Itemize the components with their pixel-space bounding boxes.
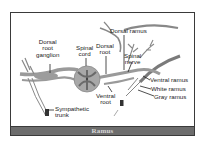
label-sympathetic-trunk: Sympathetic trunk bbox=[55, 106, 89, 119]
label-line: trunk bbox=[55, 112, 89, 118]
label-spinal-nerve: Spinal nerve bbox=[124, 53, 141, 66]
label-dorsal-ramus: Dorsal ramus bbox=[110, 28, 147, 34]
label-dorsal-root: Dorsal root bbox=[96, 43, 114, 56]
label-white-ramus: White ramus bbox=[151, 86, 186, 92]
label-line: root bbox=[96, 99, 115, 105]
label-line: cord bbox=[76, 51, 93, 57]
figure-caption: Ramus bbox=[91, 127, 113, 135]
label-line: ganglion bbox=[36, 52, 59, 58]
label-ventral-ramus: Ventral ramus bbox=[150, 77, 188, 83]
label-dorsal-root-ganglion: Dorsal root ganglion bbox=[36, 39, 59, 58]
spinal-nerve-illustration bbox=[0, 0, 208, 145]
label-gray-ramus: Gray ramus bbox=[154, 94, 186, 100]
label-line: root bbox=[96, 49, 114, 55]
label-line: nerve bbox=[124, 59, 141, 65]
label-spinal-cord: Spinal cord bbox=[76, 45, 93, 58]
label-ventral-root: Ventral root bbox=[96, 93, 115, 106]
figure-caption-bar: Ramus bbox=[10, 126, 195, 136]
